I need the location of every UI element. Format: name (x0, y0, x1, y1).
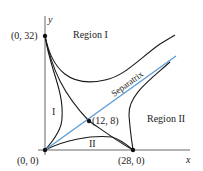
label-12-8: (12, 8) (92, 115, 119, 127)
sub-region-II-label: II (89, 138, 96, 149)
x-axis-label: x (185, 154, 191, 165)
sub-region-I-label: I (52, 106, 55, 117)
label-0-32: (0, 32) (11, 30, 38, 42)
phase-plane-diagram: Separatrix y x (0, 32) (0, 0) (12, 8) (2… (0, 0, 203, 171)
trajectory-origin-up (45, 118, 62, 150)
region-2-label: Region II (147, 113, 185, 124)
point-0-32 (43, 34, 47, 38)
trajectory-r1-top-right (160, 35, 175, 44)
label-28-0: (28, 0) (118, 155, 145, 167)
region-1-label: Region I (73, 29, 108, 40)
label-0-0: (0, 0) (17, 155, 39, 167)
separatrix-label: Separatrix (109, 68, 145, 98)
axes (38, 16, 190, 155)
point-0-0 (43, 148, 47, 152)
point-12-8 (87, 119, 91, 123)
region-I-curve (45, 118, 62, 150)
point-28-0 (131, 148, 135, 152)
y-axis-label: y (47, 14, 53, 25)
